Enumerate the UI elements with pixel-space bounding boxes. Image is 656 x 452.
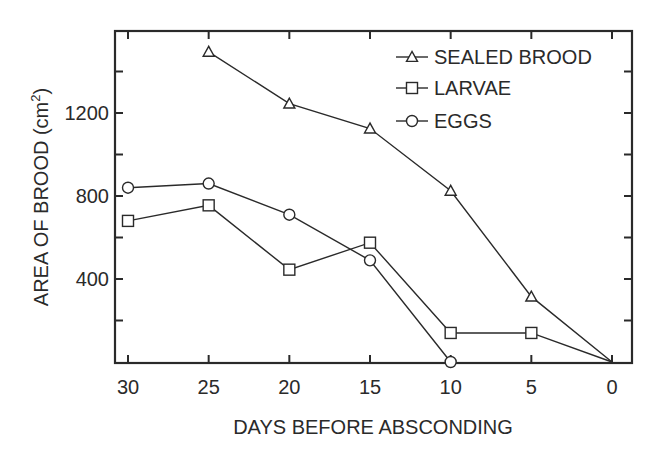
x-tick-labels: 302520151050 bbox=[117, 376, 618, 398]
series-line bbox=[128, 205, 612, 362]
legend-label: SEALED BROOD bbox=[434, 46, 592, 68]
legend-item-eggs: EGGS bbox=[396, 110, 492, 132]
x-tick-label: 25 bbox=[198, 376, 220, 398]
square-marker-icon bbox=[407, 83, 418, 94]
line-chart: 302520151050 4008001200 SEALED BROODLARV… bbox=[0, 0, 656, 452]
y-axis-title-close: ) bbox=[30, 88, 52, 95]
square-marker-icon bbox=[526, 327, 537, 338]
legend-item-sealed-brood: SEALED BROOD bbox=[396, 46, 592, 68]
y-tick-label: 1200 bbox=[65, 102, 110, 124]
triangle-marker-icon bbox=[284, 98, 295, 108]
y-tick-label: 800 bbox=[76, 185, 109, 207]
circle-marker-icon bbox=[203, 178, 214, 189]
axis-ticks bbox=[115, 31, 632, 363]
series-larvae bbox=[123, 200, 613, 362]
y-axis-title-sup: 2 bbox=[28, 94, 43, 101]
x-tick-label: 30 bbox=[117, 376, 139, 398]
legend-label: EGGS bbox=[434, 110, 492, 132]
square-marker-icon bbox=[284, 264, 295, 275]
circle-marker-icon bbox=[407, 116, 418, 127]
y-tick-label: 400 bbox=[76, 268, 109, 290]
plot-border bbox=[115, 31, 632, 363]
square-marker-icon bbox=[123, 215, 134, 226]
square-marker-icon bbox=[203, 200, 214, 211]
x-tick-label: 15 bbox=[359, 376, 381, 398]
circle-marker-icon bbox=[284, 209, 295, 220]
legend-label: LARVAE bbox=[434, 77, 511, 99]
x-axis-title: DAYS BEFORE ABSCONDING bbox=[233, 416, 513, 438]
legend: SEALED BROODLARVAEEGGS bbox=[396, 46, 592, 132]
x-tick-label: 10 bbox=[440, 376, 462, 398]
square-marker-icon bbox=[365, 237, 376, 248]
square-marker-icon bbox=[445, 327, 456, 338]
triangle-marker-icon bbox=[445, 185, 456, 195]
circle-marker-icon bbox=[365, 255, 376, 266]
x-tick-label: 20 bbox=[278, 376, 300, 398]
plot-frame bbox=[115, 31, 632, 363]
circle-marker-icon bbox=[445, 357, 456, 368]
y-tick-labels: 4008001200 bbox=[65, 102, 110, 290]
x-tick-label: 5 bbox=[526, 376, 537, 398]
legend-item-larvae: LARVAE bbox=[396, 77, 511, 99]
y-axis-title: AREA OF BROOD (cm2) bbox=[28, 88, 52, 306]
y-axis-title-main: AREA OF BROOD (cm bbox=[30, 102, 52, 306]
circle-marker-icon bbox=[123, 182, 134, 193]
triangle-marker-icon bbox=[203, 46, 214, 56]
x-tick-label: 0 bbox=[606, 376, 617, 398]
data-series bbox=[123, 46, 613, 367]
